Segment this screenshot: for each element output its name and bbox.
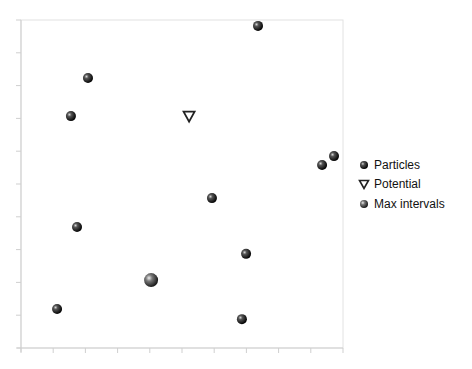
plot-frame: [21, 20, 343, 348]
data-point-particles: [52, 304, 62, 314]
legend: Particles Potential Max intervals: [358, 155, 445, 214]
data-point-particles: [241, 249, 251, 259]
data-point-max-intervals: [144, 273, 158, 287]
data-point-particles: [317, 160, 327, 170]
data-point-particles: [207, 193, 217, 203]
legend-label: Potential: [374, 177, 421, 191]
sphere-light-marker-icon: [358, 198, 370, 210]
legend-item-particles: Particles: [358, 155, 445, 175]
data-point-particles: [329, 151, 339, 161]
legend-item-max-intervals: Max intervals: [358, 194, 445, 214]
triangle-down-marker-icon: [358, 178, 370, 190]
sphere-marker-icon: [358, 159, 370, 171]
data-point-particles: [66, 111, 76, 121]
data-point-particles: [253, 21, 263, 31]
data-point-particles: [237, 314, 247, 324]
legend-label: Particles: [374, 158, 420, 172]
legend-item-potential: Potential: [358, 175, 445, 195]
legend-label: Max intervals: [374, 197, 445, 211]
data-points: [52, 21, 339, 324]
data-point-particles: [72, 222, 82, 232]
data-point-potential: [184, 112, 195, 122]
axes: [16, 20, 343, 353]
data-point-particles: [83, 73, 93, 83]
